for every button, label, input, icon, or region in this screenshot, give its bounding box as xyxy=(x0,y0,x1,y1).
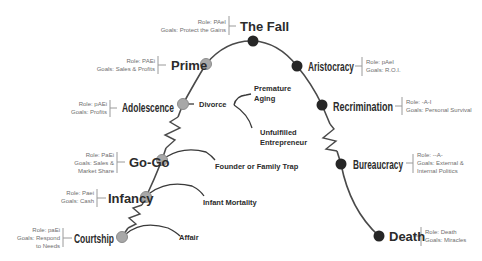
goals-adolescence: Goals: Profits xyxy=(71,109,107,115)
node-recrimination[interactable] xyxy=(317,100,328,111)
trap-premature-aging-line1: Premature xyxy=(254,84,291,93)
stage-title-death: Death xyxy=(389,229,425,244)
node-courtship[interactable] xyxy=(117,232,128,243)
goals-bureaucracy-line2: Internal Politics xyxy=(417,168,458,174)
stage-title-infancy: Infancy xyxy=(108,191,154,206)
goals-infancy: Goals: Cash xyxy=(61,198,94,204)
role-aristocracy: Role: pAeI xyxy=(366,59,394,65)
goals-courtship-line2: to Needs xyxy=(36,243,60,249)
trap-affair: Affair xyxy=(179,233,199,242)
role-the-fall: Role: PAeI xyxy=(198,19,227,25)
goals-bureaucracy-line1: Goals: External & xyxy=(417,160,464,166)
trap-premature-aging-line2: Aging xyxy=(254,94,276,103)
goals-go-go-line2: Market Share xyxy=(78,168,115,174)
trap-labels: Affair Infant Mortality Founder or Famil… xyxy=(179,84,307,242)
stage-brackets xyxy=(63,16,421,247)
role-infancy: Role: Paei xyxy=(66,190,94,196)
goals-recrimination: Goals: Personal Survival xyxy=(406,107,472,113)
goals-go-go-line1: Goals: Sales & xyxy=(74,160,114,166)
stage-title-prime: Prime xyxy=(171,58,207,73)
goals-death: Goals: Miracles xyxy=(425,237,466,243)
lifecycle-diagram: The Fall Prime Adolescence Go-Go Infancy… xyxy=(0,0,482,261)
stage-title-aristocracy: Aristocracy xyxy=(308,59,354,74)
node-adolescence[interactable] xyxy=(178,99,189,110)
role-adolescence: Role: pAEi xyxy=(79,101,107,107)
stage-title-the-fall: The Fall xyxy=(240,19,289,34)
stage-title-courtship: Courtship xyxy=(74,231,114,246)
branch-infant-mortality xyxy=(150,184,204,196)
role-go-go: Role: PaEi xyxy=(86,152,114,158)
stage-title-go-go: Go-Go xyxy=(129,155,169,170)
stage-annotations: Role: PAeI Goals: Protect the Gains Role… xyxy=(17,19,472,249)
stage-title-recrimination: Recrimination xyxy=(333,99,393,114)
node-the-fall[interactable] xyxy=(248,36,259,47)
role-bureaucracy: Role: --A- xyxy=(417,152,443,158)
branch-founder-trap xyxy=(166,150,215,160)
trap-founder: Founder or Family Trap xyxy=(215,162,299,171)
trap-divorce: Divorce xyxy=(199,100,227,109)
trap-unfulfilled-line2: Entrepreneur xyxy=(260,138,307,147)
role-prime: Role: PAEi xyxy=(126,58,155,64)
role-death: Role: Death xyxy=(425,229,457,235)
goals-the-fall: Goals: Protect the Gains xyxy=(161,27,226,33)
trap-infant-mortality: Infant Mortality xyxy=(203,198,258,207)
node-bureaucracy[interactable] xyxy=(336,159,347,170)
branch-unfulfilled xyxy=(234,105,252,128)
branch-affair xyxy=(126,225,180,236)
node-death[interactable] xyxy=(374,231,385,242)
goals-prime: Goals: Sales & Profits xyxy=(97,66,155,72)
goals-aristocracy: Goals: R.O.I. xyxy=(366,67,401,73)
stage-titles: The Fall Prime Adolescence Go-Go Infancy… xyxy=(74,19,425,246)
goals-courtship-line1: Goals: Respond xyxy=(17,235,60,241)
node-aristocracy[interactable] xyxy=(292,61,303,72)
stage-title-bureaucracy: Bureaucracy xyxy=(353,157,403,172)
role-recrimination: Role: -A-I xyxy=(406,99,432,105)
role-courtship: Role: paEi xyxy=(32,227,60,233)
stage-title-adolescence: Adolescence xyxy=(122,100,174,115)
branch-premature-aging xyxy=(234,94,251,105)
trap-unfulfilled-line1: Unfulfilled xyxy=(260,128,297,137)
